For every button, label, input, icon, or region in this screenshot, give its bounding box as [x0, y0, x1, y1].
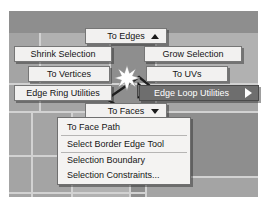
screenshot-root: To Edges Shrink Selection Grow Selection… [0, 0, 267, 210]
menu-item-label: Select Border Edge Tool [67, 139, 164, 149]
menu-item-to-face-path[interactable]: To Face Path [58, 119, 190, 136]
mesh-wire-edge [31, 111, 33, 197]
marking-menu-label: Edge Loop Utilities [154, 87, 229, 100]
marking-menu-item-to-edges[interactable]: To Edges [85, 28, 167, 44]
triangle-up-icon [151, 34, 159, 39]
marking-menu-label: To Edges [107, 30, 145, 43]
menu-item-label: Selection Boundary [67, 155, 145, 165]
marking-menu-label: To Faces [108, 105, 145, 118]
mesh-wire-edge [9, 192, 145, 194]
marking-menu-label: Edge Ring Utilities [26, 87, 100, 100]
triangle-down-icon [151, 109, 159, 114]
menu-item-selection-constraints[interactable]: Selection Constraints... [58, 168, 190, 183]
marking-menu-item-edge-loop-utilities[interactable]: Edge Loop Utilities [139, 85, 259, 101]
menu-item-label: To Face Path [67, 122, 120, 132]
menu-item-label: Selection Constraints... [67, 170, 160, 180]
marking-menu-label: Shrink Selection [30, 48, 95, 61]
mesh-face [9, 155, 31, 197]
marking-menu-label: To UVs [172, 68, 201, 81]
marking-menu-item-shrink-selection[interactable]: Shrink Selection [14, 46, 112, 62]
marking-menu-item-grow-selection[interactable]: Grow Selection [144, 46, 242, 62]
marking-menu-item-to-uvs[interactable]: To UVs [146, 66, 228, 82]
edge-loop-utilities-submenu[interactable]: To Face Path Select Border Edge Tool Sel… [57, 117, 191, 185]
marking-menu-label: To Vertices [47, 68, 91, 81]
menu-item-selection-boundary[interactable]: Selection Boundary [58, 153, 190, 168]
marking-menu-label: Grow Selection [162, 48, 223, 61]
marking-menu-item-edge-ring-utilities[interactable]: Edge Ring Utilities [14, 85, 112, 101]
mesh-face [9, 111, 31, 155]
triangle-right-icon [245, 88, 252, 98]
menu-item-select-border-edge-tool[interactable]: Select Border Edge Tool [58, 136, 190, 153]
marking-menu-item-to-vertices[interactable]: To Vertices [28, 66, 110, 82]
